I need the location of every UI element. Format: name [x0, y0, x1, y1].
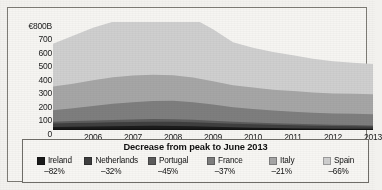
legend-item-portugal[interactable]: Portugal–45%: [140, 156, 197, 177]
y-tick-label: €800B: [28, 22, 52, 31]
legend-decrease-value: –66%: [328, 167, 348, 177]
legend-item-france[interactable]: France–37%: [196, 156, 253, 177]
legend-item-spain[interactable]: Spain–66%: [310, 156, 367, 177]
legend-swatch-icon: [84, 157, 92, 165]
legend-swatch-icon: [37, 157, 45, 165]
legend-country-label: Netherlands: [95, 156, 138, 166]
y-tick-label: 100: [38, 116, 52, 125]
y-tick-label: 700: [38, 35, 52, 44]
legend-country-label: Ireland: [48, 156, 72, 166]
legend-item-italy[interactable]: Italy–21%: [253, 156, 310, 177]
legend-title: Decrease from peak to June 2013: [23, 142, 368, 152]
legend-decrease-value: –82%: [44, 167, 64, 177]
legend-item-header: Ireland: [37, 156, 72, 166]
legend-country-label: Italy: [280, 156, 294, 166]
stacked-area-plot: [53, 22, 373, 130]
legend-country-label: Spain: [334, 156, 354, 166]
legend-decrease-value: –37%: [215, 167, 235, 177]
legend-item-header: Netherlands: [84, 156, 138, 166]
legend-item-header: France: [207, 156, 243, 166]
area-series-group: [53, 22, 373, 130]
legend-swatch-icon: [323, 157, 331, 165]
y-tick-label: 600: [38, 49, 52, 58]
legend-item-header: Spain: [323, 156, 354, 166]
legend-country-label: France: [218, 156, 243, 166]
legend-item-ireland[interactable]: Ireland–82%: [26, 156, 83, 177]
legend-item-header: Portugal: [148, 156, 188, 166]
legend: Decrease from peak to June 2013 Ireland–…: [22, 139, 369, 183]
legend-decrease-value: –45%: [158, 167, 178, 177]
y-axis: €800B7006005004003002001000: [16, 20, 52, 132]
legend-swatch-icon: [148, 157, 156, 165]
y-tick-label: 200: [38, 103, 52, 112]
legend-swatch-icon: [207, 157, 215, 165]
legend-item-header: Italy: [269, 156, 294, 166]
legend-items: Ireland–82%Netherlands–32%Portugal–45%Fr…: [26, 156, 367, 182]
legend-item-netherlands[interactable]: Netherlands–32%: [83, 156, 140, 177]
y-tick-label: 400: [38, 76, 52, 85]
y-tick-label: 500: [38, 62, 52, 71]
legend-decrease-value: –21%: [272, 167, 292, 177]
legend-country-label: Portugal: [159, 156, 188, 166]
y-tick-label: 300: [38, 89, 52, 98]
legend-swatch-icon: [269, 157, 277, 165]
y-tick-label: 0: [47, 130, 52, 139]
figure-frame: €800B7006005004003002001000 200620072008…: [7, 7, 367, 182]
chart-area: €800B7006005004003002001000 200620072008…: [16, 16, 374, 134]
legend-decrease-value: –32%: [101, 167, 121, 177]
